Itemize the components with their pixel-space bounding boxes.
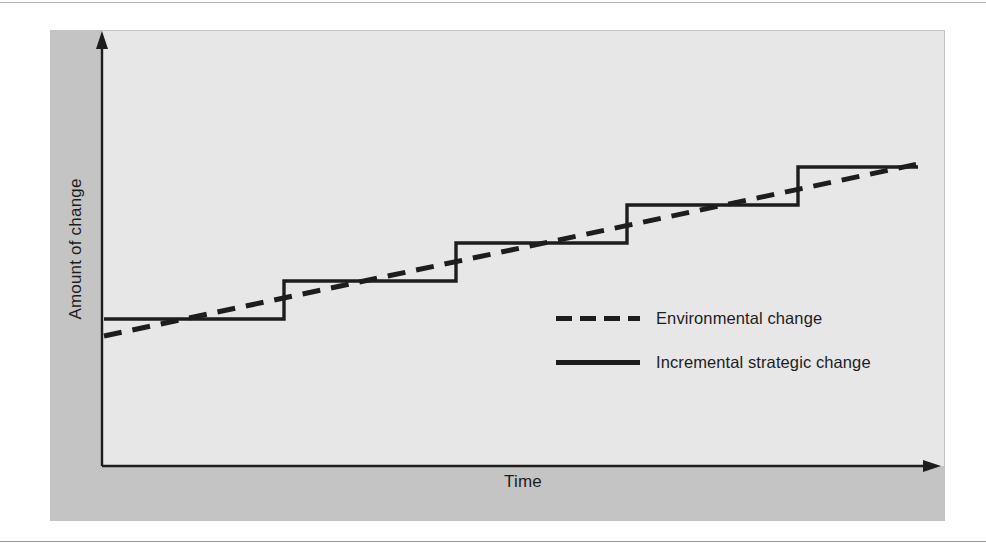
y-axis-arrowhead-icon [96,31,108,49]
x-axis-title: Time [102,472,944,492]
legend-item-incremental-strategic-change: Incremental strategic change [556,340,916,384]
x-axis-title-text: Time [504,472,542,491]
bottom-divider-rule [0,541,986,542]
chart-svg [0,0,986,548]
x-axis-arrowhead-icon [923,460,941,472]
figure-container: Amount of change Time Environmental chan… [0,0,986,548]
chart-legend: Environmental change Incremental strateg… [556,296,916,384]
legend-swatch-solid-icon [556,360,640,365]
legend-label-environmental-change: Environmental change [656,309,822,328]
legend-swatch-dashed-icon [556,316,640,321]
legend-label-incremental-strategic-change: Incremental strategic change [656,353,871,372]
x-axis [102,460,941,472]
legend-item-environmental-change: Environmental change [556,296,916,340]
y-axis [96,31,108,466]
